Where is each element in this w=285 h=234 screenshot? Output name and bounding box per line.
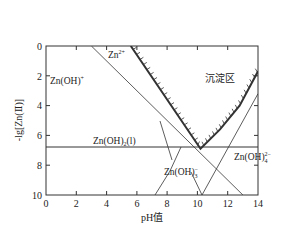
x-tick-label: 2 [74,198,79,209]
y-tick-label: 2 [37,71,42,82]
y-tick-label: 10 [32,190,42,201]
x-tick-label: 10 [192,198,202,209]
label-precipitation-zone: 沉淀区 [205,72,235,84]
x-tick-label: 14 [253,198,263,209]
precipitation-hatching [133,47,257,145]
y-axis-label: -lg[Zn(Ⅱ)] [13,99,25,141]
label-zn2: Zn2+ [108,49,126,60]
x-tick-labels: 0 2 4 6 8 10 12 14 [44,198,264,209]
label-znoh2: Zn(OH)2(l) [93,136,136,147]
x-tick-label: 8 [165,198,170,209]
x-tick-label: 0 [44,198,49,209]
x-axis-label: pH值 [141,211,163,223]
y-tick-label: 4 [37,100,42,111]
label-znoh: Zn(OH)+ [50,75,85,87]
series-znoh4-line [202,94,258,195]
zn-speciation-chart: 0 2 4 6 8 10 12 14 0 2 4 6 8 10 pH值 -lg[… [0,0,285,234]
series-znoh3-line-c [160,121,172,160]
x-tick-label: 4 [104,198,109,209]
x-tick-label: 12 [223,198,233,209]
y-tick-labels: 0 2 4 6 8 10 [32,41,42,201]
label-znoh4: Zn(OH)42− [234,151,272,164]
y-tick-label: 0 [37,41,42,52]
y-tick-label: 6 [37,130,42,141]
x-axis [76,46,227,195]
y-tick-label: 8 [37,160,42,171]
precipitation-boundary [131,46,258,149]
x-tick-label: 6 [134,198,139,209]
